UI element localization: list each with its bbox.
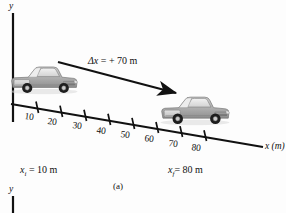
y-axis-top-label: y [9,2,13,12]
y-axis-bottom-label: y [9,185,13,195]
physics-displacement-figure: y y 10 20 30 40 50 60 70 80 x (m) Δx = +… [0,0,286,213]
x-tick-label-70: 70 [168,139,179,150]
truck-initial [8,62,80,96]
panel-label: (a) [113,182,123,191]
displacement-symbol: Δx [88,55,98,66]
displacement-annotation: Δx = + 70 m [88,56,137,66]
x-axis-label: x (m) [265,142,285,152]
truck-icon [158,92,232,127]
final-position-annotation: xf= 80 m [168,165,203,178]
final-position-value: 80 m [183,164,203,175]
initial-position-value: 10 m [37,164,57,175]
x-tick-label-40: 40 [96,126,107,137]
x-tick-label-80: 80 [191,143,202,154]
x-tick-label-30: 30 [72,121,83,132]
figure-vector-layer [0,0,286,213]
displacement-value: + 70 m [109,55,137,66]
x-tick-label-50: 50 [120,130,131,141]
truck-final [158,92,232,127]
x-tick-label-20: 20 [47,117,58,128]
x-tick-label-60: 60 [144,134,155,145]
truck-icon [8,62,80,96]
x-axis-unit: (m) [272,141,285,151]
initial-position-annotation: xi = 10 m [20,165,57,178]
x-tick-label-10: 10 [24,112,35,123]
